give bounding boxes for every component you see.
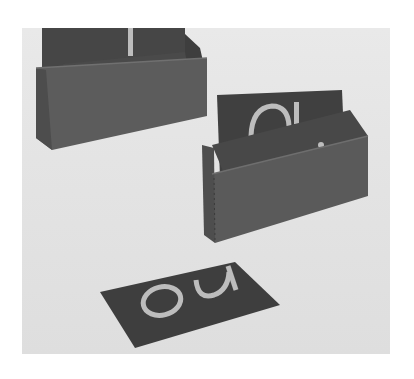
loose-card	[100, 262, 280, 348]
letter-stroke	[128, 28, 133, 56]
front-box	[202, 90, 368, 243]
letter-u-stroke	[294, 102, 299, 124]
back-box	[36, 28, 207, 150]
photo-scene	[0, 0, 414, 379]
back-box-front	[36, 58, 207, 150]
